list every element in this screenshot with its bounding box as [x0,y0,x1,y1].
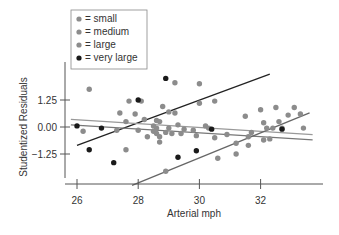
data-point [285,112,290,117]
data-point [258,107,263,112]
data-point [233,151,238,156]
data-point [224,132,229,137]
data-point [87,147,92,152]
data-point [212,135,217,140]
data-point [142,117,147,122]
data-point [243,114,248,119]
x-tick-label: 26 [71,195,83,206]
data-point [123,119,128,124]
data-point [191,128,196,133]
data-point [298,111,303,116]
legend-label: = small [85,13,117,24]
data-point [249,130,254,135]
data-point [99,125,104,130]
data-point [157,139,162,144]
data-point [169,131,174,136]
data-point [246,143,251,148]
data-point [136,128,141,133]
x-tick-label: 28 [133,195,145,206]
x-axis-ticks: 26283032 [71,179,266,206]
data-point [292,105,297,110]
residual-scatter-chart: 1.250.00−1.25 26283032 Arterial mph Stud… [0,0,339,235]
legend-label: = medium [85,26,129,37]
data-point [197,81,202,86]
x-tick-label: 32 [255,195,267,206]
data-point [163,76,168,81]
data-point [215,156,220,161]
data-point [154,131,159,136]
data-point [233,141,238,146]
data-point [197,101,202,106]
y-tick-label: −1.25 [32,149,58,160]
data-point [160,104,165,109]
data-point [261,120,266,125]
legend-marker [76,42,81,47]
data-point [163,169,168,174]
legend: = small= medium= large= very large [71,10,147,69]
data-point [194,148,199,153]
data-point [136,97,141,102]
data-point [74,123,79,128]
data-point [267,136,272,141]
data-point [209,126,214,131]
data-point [273,105,278,110]
legend-marker [76,55,81,60]
data-point [114,128,119,133]
data-point [172,110,177,115]
data-point [279,126,284,131]
legend-marker [76,16,81,21]
y-axis-ticks: 1.250.00−1.25 [32,95,70,160]
y-tick-label: 0.00 [38,122,58,133]
y-tick-label: 1.25 [38,95,58,106]
data-point [123,147,128,152]
data-point [166,125,171,130]
data-point [126,98,131,103]
data-point [80,129,85,134]
x-tick-label: 30 [194,195,206,206]
data-point [270,125,275,130]
data-point [178,131,183,136]
data-point [175,155,180,160]
data-point [264,125,269,130]
data-point [166,109,171,114]
data-point [145,134,150,139]
legend-marker [76,29,81,34]
data-point [175,122,180,127]
legend-label: = large [85,39,116,50]
data-point [194,133,199,138]
data-point [157,119,162,124]
legend-label: = very large [85,52,138,63]
data-point [132,111,137,116]
data-point [212,98,217,103]
data-point [301,125,306,130]
data-point [87,87,92,92]
data-point [172,80,177,85]
data-point [117,110,122,115]
data-point [111,160,116,165]
y-axis-title: Studentized Residuals [18,77,29,177]
x-axis-title: Arterial mph [167,208,221,219]
data-point [276,119,281,124]
data-points [74,76,306,174]
data-point [261,137,266,142]
